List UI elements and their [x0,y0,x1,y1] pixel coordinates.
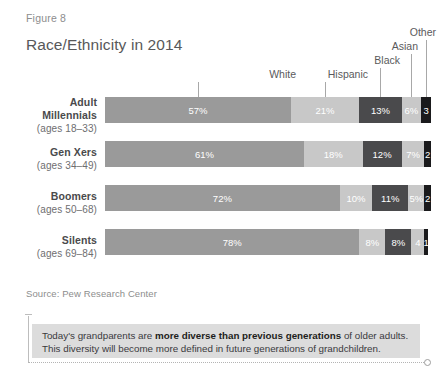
bar-segment-other: 2 [424,141,431,167]
row-label: Boomers(ages 50–68) [0,190,97,216]
row-label-ages: (ages 50–68) [0,203,97,216]
bar-segment-value: 2 [425,149,430,160]
bar-segment-other: 1 [424,229,427,255]
figure-container: Figure 8 Race/Ethnicity in 2014 WhiteHis… [0,0,442,376]
bar-segment-value: 6% [405,105,419,116]
bar-segment-white: 61% [105,141,304,167]
bar-segment-hispanic: 10% [340,185,373,211]
bar-segment-value: 11% [381,193,399,204]
callout-left-rule [28,316,29,362]
legend-leader-line-white [198,82,199,97]
bar-segment-value: 61% [195,149,214,160]
bar-segment-value: 8% [392,237,406,248]
bar-segment-value: 21% [316,105,335,116]
bar-row: 61%18%12%7%2 [105,141,431,167]
bar-segment-value: 3 [423,105,428,116]
bar-segment-black: 11% [372,185,408,211]
row-label-name: Boomers [0,190,97,203]
figure-number-label: Figure 8 [26,12,66,24]
bar-segment-value: 2 [425,193,430,204]
callout-box: Today's grandparents are more diverse th… [32,324,420,358]
callout-line1-pre: Today's grandparents are [42,330,155,341]
bar-segment-value: 5% [409,193,423,204]
bar-segment-value: 13% [371,105,390,116]
bar-segment-white: 78% [105,229,359,255]
bar-segment-black: 8% [385,229,411,255]
row-label: Silents(ages 69–84) [0,234,97,260]
callout-line-1: Today's grandparents are more diverse th… [42,329,410,342]
legend-leader-line-hispanic [325,82,326,97]
bar-segment-value: 7% [406,149,420,160]
bar-row: 72%10%11%5%2 [105,185,431,211]
legend-label-white: White [269,68,296,80]
bar-row: 78%8%8%41 [105,229,431,255]
bar-segment-asian: 5% [408,185,424,211]
bar-segment-asian: 6% [402,97,422,123]
legend-leader-line-other [426,40,427,97]
bar-segment-white: 57% [105,97,291,123]
row-label: Gen Xers(ages 34–49) [0,146,97,172]
callout-line1-post: of older adults. [341,330,408,341]
row-label-ages: (ages 69–84) [0,247,97,260]
row-label-ages: (ages 34–49) [0,159,97,172]
row-label-name-cont: Millennials [0,109,97,122]
legend-label-other: Other [410,26,436,38]
bar-segment-hispanic: 21% [291,97,359,123]
bar-segment-black: 12% [363,141,402,167]
legend-label-hispanic: Hispanic [328,68,368,80]
source-note: Source: Pew Research Center [26,288,157,299]
bar-segment-value: 72% [213,193,232,204]
row-label-name: Silents [0,234,97,247]
legend-label-asian: Asian [392,40,418,52]
bar-segment-asian: 7% [402,141,425,167]
legend-leader-line-black [380,68,381,97]
bar-segment-value: 57% [188,105,207,116]
bar-row: 57%21%13%6%3 [105,97,431,123]
bar-segment-hispanic: 18% [304,141,363,167]
bar-segment-white: 72% [105,185,340,211]
callout-dotted-rule [28,362,426,364]
row-label-name: Adult [0,96,97,109]
callout-line1-emphasis: more diverse than previous generations [155,330,341,341]
bar-segment-value: 10% [347,193,366,204]
row-label-name: Gen Xers [0,146,97,159]
bar-segment-other: 3 [421,97,431,123]
bar-segment-value: 12% [373,149,392,160]
bar-segment-value: 78% [223,237,242,248]
bar-segment-hispanic: 8% [359,229,385,255]
bar-segment-value: 8% [365,237,379,248]
legend-leader-line-asian [411,54,412,97]
bar-segment-other: 2 [424,185,431,211]
bar-segment-asian: 4 [411,229,424,255]
chart-title: Race/Ethnicity in 2014 [26,36,182,54]
bar-segment-value: 4 [415,237,420,248]
callout-endpoint-marker [424,359,431,366]
legend-label-black: Black [374,54,400,66]
row-label-ages: (ages 18–33) [0,122,97,135]
bar-segment-value: 1 [424,237,427,248]
bar-segment-value: 18% [324,149,343,160]
row-label: AdultMillennials(ages 18–33) [0,96,97,135]
callout-line-2: This diversity will become more defined … [42,342,410,355]
bar-segment-black: 13% [359,97,401,123]
